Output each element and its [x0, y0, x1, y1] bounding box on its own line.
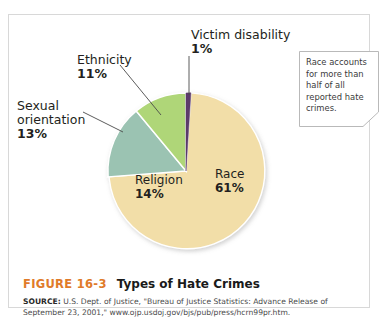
pie-label-victim-disability-name: Victim disability	[191, 27, 290, 42]
pie-label-sexual-orientation-value: 13%	[17, 127, 85, 141]
pie-label-race-value: 61%	[215, 181, 244, 195]
pie-label-race-name: Race	[215, 167, 244, 181]
pie-label-ethnicity-value: 11%	[77, 67, 132, 81]
pie-label-sexual-orientation-name-line2: orientation	[17, 112, 85, 127]
pie-label-religion-name: Religion	[135, 173, 183, 187]
source-keyword: SOURCE:	[23, 297, 61, 306]
pie-label-sexual-orientation: Sexual orientation 13%	[17, 99, 85, 141]
pie-label-victim-disability-value: 1%	[191, 42, 290, 56]
pie-label-sexual-orientation-name-line1: Sexual	[17, 98, 59, 113]
leader-line-sexual-orientation	[83, 112, 123, 132]
pie-label-ethnicity-name: Ethnicity	[77, 52, 132, 67]
callout-text: Race accounts for more than half of all …	[306, 57, 370, 115]
figure-number: FIGURE 16-3	[23, 277, 107, 291]
pie-label-religion-value: 14%	[135, 187, 183, 201]
figure-source: SOURCE: U.S. Dept. of Justice, "Bureau o…	[23, 297, 353, 318]
figure-title: Types of Hate Crimes	[117, 277, 260, 291]
source-text: U.S. Dept. of Justice, "Bureau of Justic…	[23, 297, 328, 317]
figure-caption: FIGURE 16-3Types of Hate Crimes SOURCE: …	[23, 273, 359, 318]
pie-label-victim-disability: Victim disability 1%	[191, 28, 290, 56]
pie-label-ethnicity: Ethnicity 11%	[77, 53, 132, 81]
pie-label-race: Race 61%	[215, 167, 244, 195]
figure-container: Ethnicity 11% Sexual orientation 13% Vic…	[8, 14, 370, 308]
callout-annotation: Race accounts for more than half of all …	[299, 51, 379, 127]
pie-label-religion: Religion 14%	[135, 173, 183, 201]
page-bleed-text	[8, 0, 228, 10]
pie-chart: Ethnicity 11% Sexual orientation 13% Vic…	[9, 15, 371, 267]
